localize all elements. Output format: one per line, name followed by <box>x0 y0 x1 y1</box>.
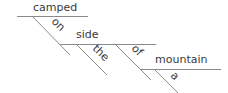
word-a: a <box>168 69 182 83</box>
word-camped: camped <box>33 1 77 14</box>
word-side: side <box>76 28 99 41</box>
word-on: on <box>49 15 68 34</box>
sentence-diagram: camped on side the of mountain a <box>0 0 228 93</box>
word-mountain: mountain <box>155 53 207 66</box>
